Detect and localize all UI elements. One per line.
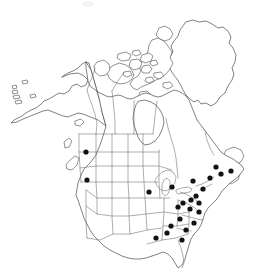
occurrence-dot	[191, 220, 196, 225]
occurrence-dot	[153, 235, 158, 240]
occurrence-dot	[196, 209, 201, 214]
occurrence-dot	[193, 193, 198, 198]
occurrence-dot	[177, 216, 182, 221]
occurrence-dot	[228, 168, 233, 173]
aleutian-islet-5	[30, 94, 36, 98]
occurrence-dot	[218, 171, 223, 176]
occurrence-dot	[164, 230, 169, 235]
occurrence-dot	[84, 177, 89, 182]
arctic-islet-f	[163, 82, 173, 89]
haida-gwaii-outline	[64, 138, 72, 148]
border-states-vertical-1	[79, 134, 81, 182]
occurrence-dot	[213, 164, 218, 169]
occurrence-dot	[188, 197, 193, 202]
occurrence-dot	[187, 206, 192, 211]
distribution-map-figure	[0, 0, 265, 275]
aleutian-islet-6	[22, 80, 28, 84]
arctic-islet-a	[132, 50, 141, 56]
melville-island-outline	[117, 52, 131, 61]
occurrence-dot	[200, 186, 205, 191]
vancouver-island-outline	[66, 156, 79, 170]
occurrence-dot	[168, 223, 173, 228]
occurrence-dot	[180, 200, 185, 205]
faint-artifact	[82, 1, 94, 7]
aleutian-islet-4	[15, 100, 22, 104]
occurrence-dot	[169, 184, 174, 189]
occurrence-dot	[179, 237, 184, 242]
aleutian-islet-3	[13, 95, 20, 99]
occurrence-dot	[146, 189, 151, 194]
occurrence-dot	[196, 200, 201, 205]
aleutian-islet-1	[12, 85, 17, 89]
north-america-map	[0, 0, 265, 275]
occurrence-dot	[207, 175, 212, 180]
occurrence-dot	[190, 178, 195, 183]
kodiak-island-outline	[75, 119, 84, 126]
occurrence-dot	[83, 149, 88, 154]
aleutian-islet-2	[12, 90, 18, 94]
occurrence-dot	[175, 204, 180, 209]
occurrence-dot	[183, 227, 188, 232]
